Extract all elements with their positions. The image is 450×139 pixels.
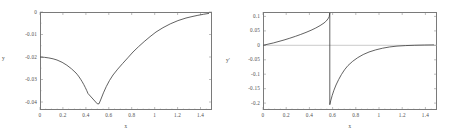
plot-left-xtick-08: 0.8 <box>124 113 140 118</box>
plot-right-series-branch1 <box>263 13 330 45</box>
plot-right-ytick-m005: -0.05 <box>231 57 260 62</box>
plot-right-ytick-01: 0.1 <box>231 14 260 19</box>
plot-left-ytick-m002: -0.02 <box>8 55 37 60</box>
plot-right-xtick-14: 1.4 <box>417 113 433 118</box>
plot-right-xtick-06: 0.6 <box>325 113 341 118</box>
plot-right-minor-ticks <box>269 109 431 111</box>
plot-left-ylabel: y <box>2 56 5 61</box>
plot-right-xtick-04: 0.4 <box>301 113 317 118</box>
plot-left-xtick-14: 1.4 <box>193 113 209 118</box>
plot-right-ylabel: y' <box>226 58 230 63</box>
plot-left-ticks <box>40 12 212 110</box>
figure-canvas: 0 -0.01 -0.02 -0.03 -0.04 0 0.2 0.4 0.6 … <box>0 0 450 139</box>
plot-left-xtick-12: 1.2 <box>170 113 186 118</box>
plot-right-xtick-12: 1.2 <box>394 113 410 118</box>
plot-right-ytick-m01: -0.1 <box>231 72 260 77</box>
plot-right-ytick-0: 0 <box>231 43 260 48</box>
plot-right-xtick-0: 0 <box>255 113 271 118</box>
plot-left-series-y <box>40 13 209 103</box>
plot-right-series-branch2 <box>330 45 434 105</box>
plot-right: 0.1 0.05 0 -0.05 -0.1 -0.15 -0.2 0 0.2 0… <box>225 0 450 139</box>
plot-left-xtick-02: 0.2 <box>55 113 71 118</box>
plot-left-xtick-0: 0 <box>32 113 48 118</box>
plot-left-ytick-m001: -0.01 <box>8 32 37 37</box>
plot-right-ytick-005: 0.05 <box>231 28 260 33</box>
plot-left-xtick-1: 1 <box>147 113 163 118</box>
plot-left-minor-ticks <box>40 23 206 110</box>
plot-right-xtick-08: 0.8 <box>348 113 364 118</box>
plot-left-xtick-04: 0.4 <box>78 113 94 118</box>
plot-right-ytick-m02: -0.2 <box>231 101 260 106</box>
plot-left-ytick-m004: -0.04 <box>8 100 37 105</box>
plot-right-xlabel: x <box>342 124 358 129</box>
plot-right-xtick-1: 1 <box>371 113 387 118</box>
plot-left-ytick-0: 0 <box>8 10 37 15</box>
plot-right-ticks <box>263 12 437 110</box>
plot-left-xtick-06: 0.6 <box>101 113 117 118</box>
plot-left-ytick-m003: -0.03 <box>8 77 37 82</box>
plot-left: 0 -0.01 -0.02 -0.03 -0.04 0 0.2 0.4 0.6 … <box>0 0 225 139</box>
plot-right-ytick-m015: -0.15 <box>231 86 260 91</box>
plot-right-xtick-02: 0.2 <box>278 113 294 118</box>
plot-left-xlabel: x <box>118 124 134 129</box>
